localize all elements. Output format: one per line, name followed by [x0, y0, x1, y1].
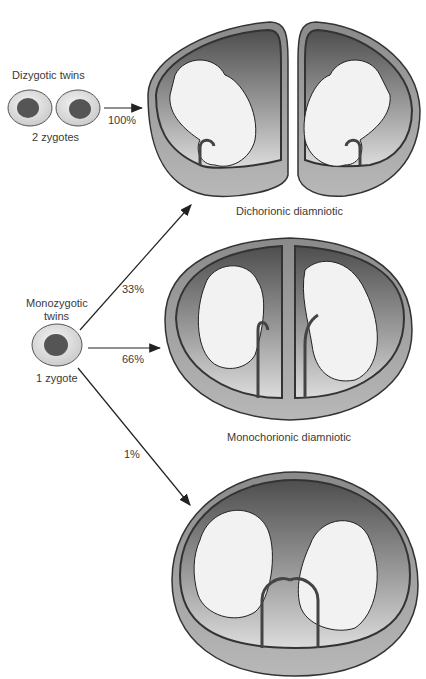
monozygotic-zygote: [32, 324, 82, 366]
monochorionic-diamniotic-label: Monochorionic diamniotic: [227, 431, 351, 443]
dizygotic-zygotes: [8, 90, 100, 126]
arrow-1: [78, 368, 190, 505]
monozygotic-title-2: twins: [44, 310, 69, 322]
arrow-33-label: 33%: [122, 283, 144, 295]
arrow-66-label: 66%: [122, 353, 144, 365]
monozygotic-subtitle: 1 zygote: [36, 372, 78, 384]
monochorionic-monoamniotic-diagram: [172, 472, 418, 676]
monochorionic-diamniotic-diagram: [165, 238, 412, 420]
dichorionic-diamniotic-label: Dichorionic diamniotic: [236, 205, 343, 217]
arrow-1-label: 1%: [124, 448, 140, 460]
twin-types-diagram: [0, 0, 426, 679]
dizygotic-subtitle: 2 zygotes: [32, 131, 79, 143]
dichorionic-diamniotic-diagram: [148, 22, 420, 196]
arrow-100-label: 100%: [108, 114, 136, 126]
dizygotic-title: Dizygotic twins: [12, 69, 85, 81]
monozygotic-title-1: Monozygotic: [26, 297, 88, 309]
